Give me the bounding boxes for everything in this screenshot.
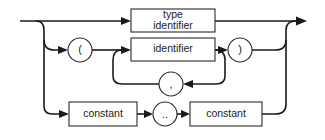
constant-low-box: constant bbox=[69, 102, 137, 126]
type-identifier-label-line2: identifier bbox=[153, 19, 193, 31]
type-identifier-box: type identifier bbox=[131, 8, 215, 32]
constant-high-box: constant bbox=[190, 102, 262, 126]
constant-high-label: constant bbox=[206, 107, 246, 119]
right-trunk-line bbox=[262, 40, 286, 114]
range-dots-label: .. bbox=[162, 108, 168, 120]
identifier-label: identifier bbox=[153, 42, 193, 54]
left-trunk-line bbox=[36, 21, 60, 114]
syntax-diagram: type identifier ( identifier ) , constan… bbox=[0, 0, 325, 140]
exit-arrow-icon bbox=[296, 17, 307, 26]
left-branch-paren-line bbox=[44, 40, 60, 50]
arrow-icon bbox=[183, 80, 193, 88]
identifier-box: identifier bbox=[131, 38, 215, 61]
paren-to-trunk-line bbox=[252, 21, 296, 50]
open-paren-label: ( bbox=[78, 43, 82, 55]
comma-terminal: , bbox=[159, 72, 183, 96]
arrow-icon bbox=[144, 110, 153, 118]
arrow-icon bbox=[181, 110, 190, 118]
arrow-icon bbox=[59, 110, 69, 118]
comma-label: , bbox=[169, 78, 172, 90]
arrow-icon bbox=[121, 17, 131, 25]
open-paren-terminal: ( bbox=[68, 38, 92, 62]
constant-low-label: constant bbox=[83, 107, 123, 119]
arrow-icon bbox=[58, 46, 68, 54]
range-dots-terminal: .. bbox=[153, 102, 177, 126]
close-paren-label: ) bbox=[238, 43, 242, 55]
close-paren-terminal: ) bbox=[228, 38, 252, 62]
arrow-icon bbox=[121, 46, 131, 54]
